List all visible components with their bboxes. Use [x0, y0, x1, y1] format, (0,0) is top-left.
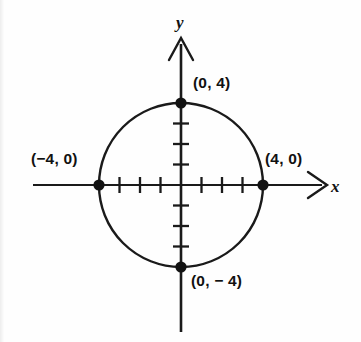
point-label-left-intercept: (−4, 0) [31, 150, 78, 168]
graph-canvas [0, 0, 361, 342]
point-bottom-intercept [175, 261, 186, 272]
point-left-intercept [93, 179, 104, 190]
point-label-top-intercept: (0, 4) [193, 74, 230, 92]
point-right-intercept [257, 179, 268, 190]
coordinate-plane-figure: (0, 4) (4, 0) (0, − 4) (−4, 0) y x [0, 0, 361, 342]
y-axis-label: y [176, 13, 184, 33]
x-axis-label: x [331, 177, 340, 197]
point-top-intercept [175, 97, 186, 108]
point-label-right-intercept: (4, 0) [265, 150, 302, 168]
point-label-bottom-intercept: (0, − 4) [191, 272, 242, 290]
